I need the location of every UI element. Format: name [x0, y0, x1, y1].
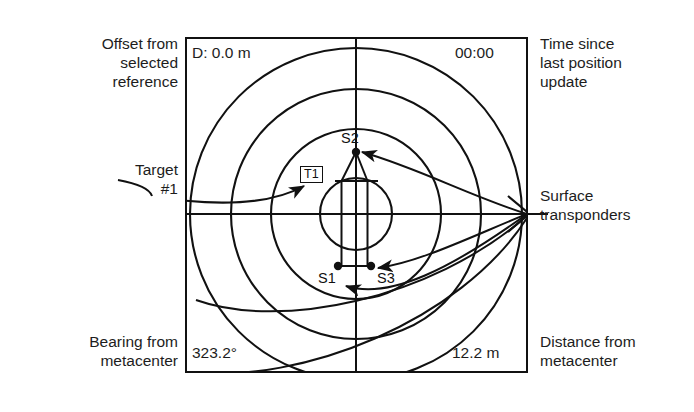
bearing-readout: 323.2° [192, 344, 237, 362]
marker-label-s3: S3 [377, 270, 395, 286]
marker-s1[interactable] [334, 262, 342, 270]
marker-s2[interactable] [352, 148, 360, 156]
annotation-target: Target #1 [10, 160, 178, 198]
marker-label-s1: S1 [318, 270, 336, 286]
time-since-update-readout: 00:00 [455, 44, 494, 62]
annotation-bearing-from-metacenter: Bearing from metacenter [10, 332, 178, 370]
depth-readout: D: 0.0 m [192, 44, 251, 62]
annotation-surface-transponders: Surface transponders [540, 186, 690, 224]
annotation-offset-from-reference: Offset from selected reference [10, 34, 178, 91]
distance-readout: 12.2 m [452, 344, 499, 362]
marker-label-t1[interactable]: T1 [300, 166, 323, 183]
marker-s3[interactable] [367, 262, 375, 270]
annotation-distance-from-metacenter: Distance from metacenter [540, 332, 690, 370]
annotation-time-since-update: Time since last position update [540, 34, 690, 91]
marker-label-s2: S2 [341, 130, 359, 146]
